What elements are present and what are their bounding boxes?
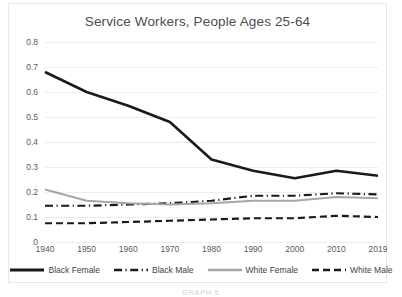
x-axis-tick-label: 1990: [244, 244, 263, 254]
legend-swatch-icon: [312, 266, 346, 274]
x-axis-tick-label: 2010: [327, 244, 346, 254]
x-axis-tick-label: 1960: [119, 244, 138, 254]
y-axis-tick-label: 0.1: [26, 212, 38, 222]
x-axis-tick-label: 2000: [285, 244, 304, 254]
chart-title: Service Workers, People Ages 25-64: [9, 14, 386, 29]
legend: Black FemaleBlack MaleWhite FemaleWhite …: [29, 262, 374, 278]
legend-label: White Female: [246, 265, 298, 275]
legend-item-white-female[interactable]: White Female: [208, 265, 298, 275]
x-axis-tick-label: 2019: [369, 244, 388, 254]
x-axis: 194019501960197019801990200020102019: [45, 244, 378, 258]
legend-item-black-male[interactable]: Black Male: [114, 265, 194, 275]
y-axis-tick-label: 0.8: [26, 37, 38, 47]
series-layer: [45, 42, 378, 242]
x-axis-tick-label: 1950: [77, 244, 96, 254]
legend-item-black-female[interactable]: Black Female: [10, 265, 100, 275]
legend-swatch-icon: [10, 266, 44, 274]
y-axis-tick-label: 0.6: [26, 87, 38, 97]
legend-swatch-icon: [208, 266, 242, 274]
series-line-black-female: [45, 72, 378, 178]
chart-card: Service Workers, People Ages 25-64 00.10…: [8, 3, 387, 283]
legend-swatch-icon: [114, 266, 148, 274]
y-axis-tick-label: 0.5: [26, 112, 38, 122]
x-axis-tick-label: 1940: [36, 244, 55, 254]
legend-label: Black Male: [152, 265, 194, 275]
series-line-white-female: [45, 190, 378, 205]
x-axis-tick-label: 1970: [160, 244, 179, 254]
y-axis: 00.10.20.30.40.50.60.70.8: [9, 42, 42, 242]
legend-item-white-male[interactable]: White Male: [312, 265, 393, 275]
x-axis-tick-label: 1980: [202, 244, 221, 254]
legend-label: White Male: [350, 265, 393, 275]
y-axis-tick-label: 0.2: [26, 187, 38, 197]
series-line-white-male: [45, 216, 378, 224]
y-axis-tick-label: 0.4: [26, 137, 38, 147]
gridline: [45, 242, 378, 243]
y-axis-tick-label: 0.3: [26, 162, 38, 172]
y-axis-tick-label: 0.7: [26, 62, 38, 72]
bottom-artifact: GRAPH 5: [182, 289, 228, 295]
plot-area: [45, 42, 378, 242]
legend-label: Black Female: [48, 265, 100, 275]
